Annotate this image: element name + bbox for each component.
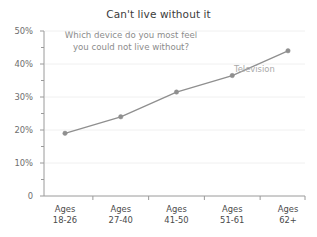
x-axis-tick-label-top: Ages [202, 204, 262, 215]
gridlines [45, 31, 305, 163]
x-axis-tick-label: Ages62+ [258, 204, 317, 226]
plot-area [0, 0, 317, 237]
x-axis-tick-label-bottom: 51-61 [202, 215, 262, 226]
x-axis [44, 196, 305, 200]
data-point-marker [286, 49, 290, 53]
x-axis-tick-label: Ages18-26 [35, 204, 95, 226]
data-point-marker [230, 73, 234, 77]
x-axis-tick-label-bottom: 41-50 [147, 215, 207, 226]
x-axis-tick-label: Ages41-50 [147, 204, 207, 226]
x-axis-tick-label-bottom: 18-26 [35, 215, 95, 226]
data-point-marker [119, 115, 123, 119]
x-axis-tick-label-bottom: 27-40 [91, 215, 151, 226]
x-axis-tick-label: Ages27-40 [91, 204, 151, 226]
y-axis [40, 31, 44, 196]
x-axis-tick-label-bottom: 62+ [258, 215, 317, 226]
x-axis-tick-label-top: Ages [35, 204, 95, 215]
data-point-marker [174, 90, 178, 94]
series-label-television: Television [234, 64, 275, 74]
chart-container: Can't live without it Which device do yo… [0, 0, 317, 237]
x-axis-tick-label-top: Ages [147, 204, 207, 215]
series-television [63, 49, 290, 136]
x-axis-tick-label-top: Ages [258, 204, 317, 215]
x-axis-tick-label-top: Ages [91, 204, 151, 215]
data-point-marker [63, 131, 67, 135]
x-axis-tick-label: Ages51-61 [202, 204, 262, 226]
